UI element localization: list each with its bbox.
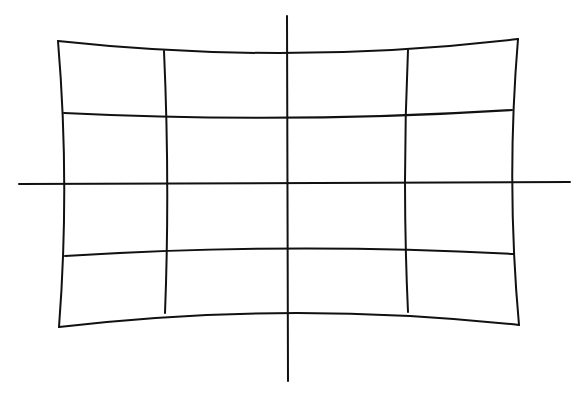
- pincushion-distortion-diagram: [0, 0, 588, 393]
- vertical-axis: [287, 16, 288, 381]
- horizontal-axis: [19, 182, 570, 184]
- inner-vertical-right: [405, 50, 408, 312]
- inner-vertical-left: [164, 51, 167, 313]
- bottom-edge: [59, 313, 519, 327]
- row-line-lower: [65, 248, 514, 256]
